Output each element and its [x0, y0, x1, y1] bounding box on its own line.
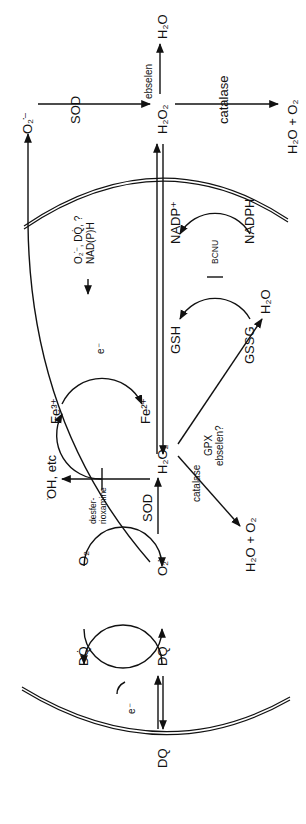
desferrioxamine-1: desfer-: [88, 497, 98, 524]
ebselen-intra: ebselen?: [214, 425, 225, 466]
gpx-label: GPX: [203, 435, 214, 456]
h2o-intra: H₂O: [258, 289, 273, 314]
o2-radical-intra: O₂̇⁻: [155, 554, 170, 576]
nadph: NADPH: [242, 198, 257, 244]
h2o2-extra: H₂O₂: [155, 104, 170, 134]
h2o-o2-extra: H₂O + O₂: [285, 99, 300, 154]
dq-redox-cycle: [84, 527, 162, 694]
reductants-2: NAD(P)H: [85, 222, 96, 264]
glutathione-cycle: [180, 213, 250, 319]
gsh: GSH: [168, 326, 183, 354]
electron-2: e⁻: [95, 343, 106, 354]
o2: O₂: [76, 551, 91, 566]
catalase-arrow-intra: [178, 456, 240, 526]
gssg: GSSG: [242, 326, 257, 364]
catalase-intra: catalase: [191, 464, 202, 502]
dq-transport-arrows: [158, 676, 163, 729]
cell-membrane-left: [22, 687, 290, 735]
reductants-1: O₂̇⁻, DQ̇, ?: [72, 215, 84, 264]
h2o-extra: H₂O: [155, 14, 170, 39]
fe2: Fe²⁺: [138, 398, 153, 425]
iron-cycle: [57, 378, 142, 479]
sod-intra: SOD: [140, 494, 155, 522]
dq-extracellular: DQ: [155, 749, 170, 769]
catalase-extra: catalase: [216, 76, 231, 124]
h2o2-transport-arrows: [157, 144, 163, 454]
redox-cycling-diagram: DQ DQ̇ DQ e⁻ O₂ O₂̇⁻ SOD H₂O₂ catalase H…: [0, 0, 306, 824]
o2-radical-extra: O₂̇⁻: [20, 112, 35, 134]
electron-1: e⁻: [126, 703, 137, 714]
h2o-o2-intra: H₂O + O₂: [243, 517, 258, 572]
hydroxyl-etc: ̇OH, etc: [44, 454, 59, 500]
bcnu: BCNU: [210, 240, 220, 264]
dq-intracellular: DQ: [155, 647, 170, 667]
ebselen-extra: ebselen: [143, 64, 154, 99]
nadp-plus: NADP⁺: [168, 201, 183, 244]
sod-extra: SOD: [68, 96, 83, 124]
dq-radical: DQ̇: [76, 647, 91, 667]
